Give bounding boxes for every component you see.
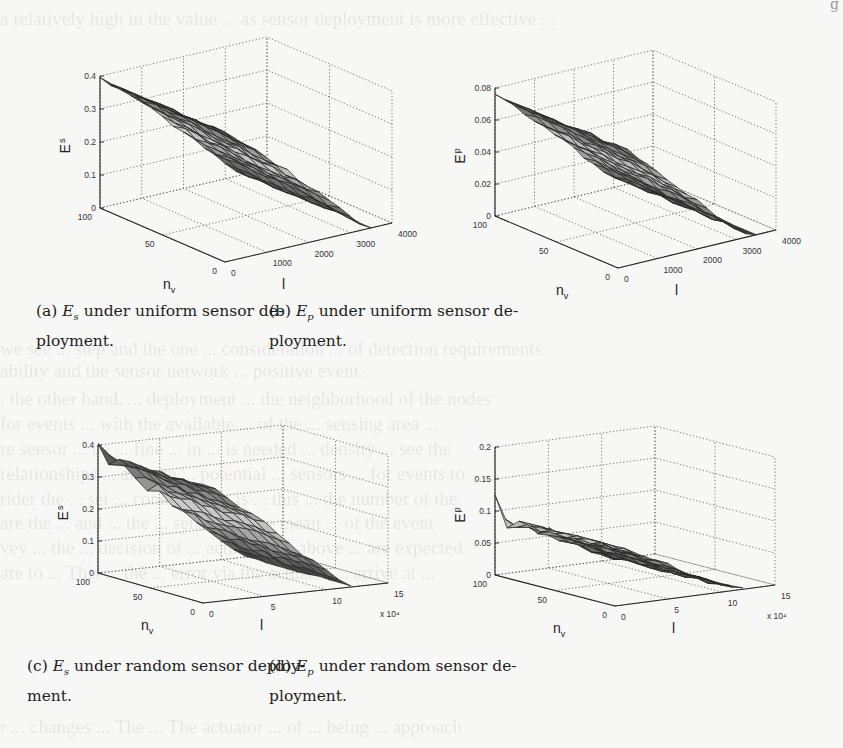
bleed-through-text: a relatively high in the value ... as se… xyxy=(0,8,843,30)
y-axis-label: l xyxy=(672,620,675,636)
surface-mesh xyxy=(100,77,371,227)
y-tick-label: 1000 xyxy=(273,258,292,268)
subfigure-d: 00.050.10.150.2050100051015x 10⁴Epnvl xyxy=(440,370,843,635)
caption-b: (b) Ep under uniform sensor de- ployment… xyxy=(269,299,518,353)
z-tick-label: 0 xyxy=(486,570,491,580)
x-axis xyxy=(100,208,225,262)
y-tick-label: 5 xyxy=(674,605,679,615)
y-tick-label: 3000 xyxy=(356,239,375,249)
y-tick-label: 4000 xyxy=(398,229,417,239)
surface-plot-d: 00.050.10.150.2050100051015x 10⁴Epnvl xyxy=(440,370,843,635)
x-tick-label: 50 xyxy=(539,246,549,256)
x-axis xyxy=(495,216,618,268)
page-corner-mark: g xyxy=(830,0,839,12)
y-axis-label: l xyxy=(675,282,678,298)
z-tick-label: 0.02 xyxy=(474,179,491,189)
caption-label: (c) xyxy=(27,657,48,675)
y-axis-label: l xyxy=(282,276,285,292)
x-tick-label: 100 xyxy=(473,220,487,230)
z-tick-label: 0.1 xyxy=(479,506,491,516)
surface-plot-c: 00.10.20.30.4050100051015x 10⁴Esnvl xyxy=(20,370,440,635)
y-tick-label: 15 xyxy=(394,589,404,599)
caption-label: (d) xyxy=(269,657,291,675)
surface-plot-b: 00.020.040.060.0805010001000200030004000… xyxy=(440,40,843,290)
z-tick-label: 0.4 xyxy=(84,71,96,81)
x-tick-label: 0 xyxy=(602,610,607,620)
y-tick-label: 0 xyxy=(624,274,629,284)
x-tick-label: 0 xyxy=(212,266,217,276)
x-tick-label: 0 xyxy=(190,607,195,617)
z-tick-label: 0 xyxy=(486,211,491,221)
z-tick-label: 0.06 xyxy=(474,115,491,125)
y-tick-label: 0 xyxy=(231,268,236,278)
x-tick-label: 100 xyxy=(78,212,92,222)
z-tick-label: 0.08 xyxy=(474,83,491,93)
y-axis-multiplier: x 10⁴ xyxy=(767,611,787,621)
surface-mesh xyxy=(98,444,351,587)
caption-variable: E xyxy=(53,657,64,675)
y-tick-label: 15 xyxy=(781,591,791,601)
caption-a: (a) Es under uniform sensor de- ployment… xyxy=(36,299,283,353)
plot-box xyxy=(495,426,775,606)
z-axis-label: Es xyxy=(55,505,71,520)
x-axis xyxy=(495,575,615,606)
subfigure-c: 00.10.20.30.4050100051015x 10⁴Esnvl xyxy=(20,370,440,635)
x-tick-label: 50 xyxy=(538,595,548,605)
z-tick-label: 0.1 xyxy=(84,170,96,180)
y-axis xyxy=(203,583,388,603)
surface-plot-a: 00.10.20.30.405010001000200030004000Esnv… xyxy=(20,40,440,290)
y-axis-label: l xyxy=(260,617,263,633)
y-tick-label: 5 xyxy=(271,602,276,612)
surface-mesh xyxy=(495,495,743,588)
tick-labels: 00.050.10.150.2050100051015x 10⁴ xyxy=(473,442,791,622)
x-tick-label: 0 xyxy=(605,272,610,282)
z-tick-label: 0 xyxy=(89,568,94,578)
caption-label: (b) xyxy=(269,302,291,320)
x-tick-label: 50 xyxy=(145,239,155,249)
caption-label: (a) xyxy=(36,302,57,320)
y-tick-label: 2000 xyxy=(315,249,334,259)
y-axis-multiplier: x 10⁴ xyxy=(380,609,400,619)
y-tick-label: 0 xyxy=(209,609,214,619)
x-axis xyxy=(98,573,203,603)
z-tick-label: 0.2 xyxy=(82,504,94,514)
z-tick-label: 0.2 xyxy=(479,442,491,452)
z-tick-label: 0.1 xyxy=(82,536,94,546)
x-tick-label: 100 xyxy=(76,577,90,587)
y-tick-label: 0 xyxy=(621,612,626,622)
x-axis-label: nv xyxy=(556,282,569,301)
y-tick-label: 3000 xyxy=(743,246,762,256)
y-tick-label: 10 xyxy=(332,596,342,606)
y-axis xyxy=(615,585,775,606)
z-tick-label: 0 xyxy=(91,203,96,213)
x-tick-label: 50 xyxy=(133,592,143,602)
x-axis-label: nv xyxy=(141,617,154,636)
subfigure-b: 00.020.040.060.0805010001000200030004000… xyxy=(440,40,843,290)
z-tick-label: 0.3 xyxy=(82,472,94,482)
z-axis-label: Ep xyxy=(452,148,468,163)
caption-variable: E xyxy=(62,302,73,320)
z-tick-label: 0.05 xyxy=(474,538,491,548)
y-tick-label: 1000 xyxy=(664,265,683,275)
x-axis-label: nv xyxy=(163,276,176,295)
x-tick-label: 100 xyxy=(473,579,487,589)
subfigure-a: 00.10.20.30.405010001000200030004000Esnv… xyxy=(20,40,440,290)
caption-variable: E xyxy=(296,302,307,320)
z-axis-label: Ep xyxy=(452,507,468,522)
z-tick-label: 0.4 xyxy=(82,440,94,450)
caption-c: (c) Es under random sensor deploy- ment. xyxy=(27,654,305,708)
caption-d: (d) Ep under random sensor de- ployment. xyxy=(269,654,517,708)
x-axis-label: nv xyxy=(553,620,566,639)
z-tick-label: 0.3 xyxy=(84,104,96,114)
z-axis-label: Es xyxy=(57,138,73,153)
caption-variable: E xyxy=(296,657,307,675)
bleed-through-text: r ... changes ... The ... The actuator .… xyxy=(0,716,843,738)
surface-mesh xyxy=(495,94,756,235)
y-tick-label: 2000 xyxy=(703,255,722,265)
z-tick-label: 0.15 xyxy=(474,474,491,484)
z-tick-label: 0.04 xyxy=(474,147,491,157)
y-tick-label: 10 xyxy=(728,598,738,608)
y-tick-label: 4000 xyxy=(782,236,801,246)
z-tick-label: 0.2 xyxy=(84,137,96,147)
